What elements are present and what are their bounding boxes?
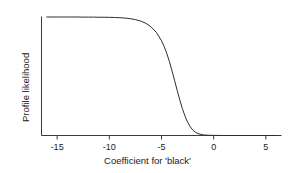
x-tick-label-4: 5 — [246, 142, 286, 152]
x-axis-title: Coefficient for 'black' — [0, 155, 295, 166]
x-axis-ticks — [57, 136, 266, 140]
x-tick-label-3: 0 — [194, 142, 234, 152]
axes-group — [42, 17, 282, 136]
chart-figure: -15-10-505 Coefficient for 'black' Profi… — [0, 0, 295, 173]
x-tick-label-1: -10 — [89, 142, 129, 152]
profile-likelihood-curve — [47, 17, 277, 136]
y-axis-title: Profile likelihood — [20, 53, 31, 122]
x-tick-label-0: -15 — [37, 142, 77, 152]
x-tick-label-2: -5 — [142, 142, 182, 152]
